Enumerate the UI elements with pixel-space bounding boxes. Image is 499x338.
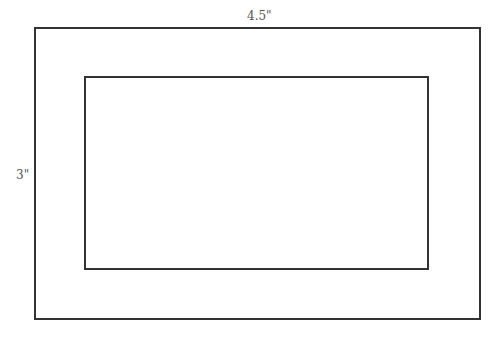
height-label: 3"	[16, 168, 29, 182]
inner-rectangle	[84, 76, 429, 270]
width-label: 4.5"	[247, 9, 272, 23]
